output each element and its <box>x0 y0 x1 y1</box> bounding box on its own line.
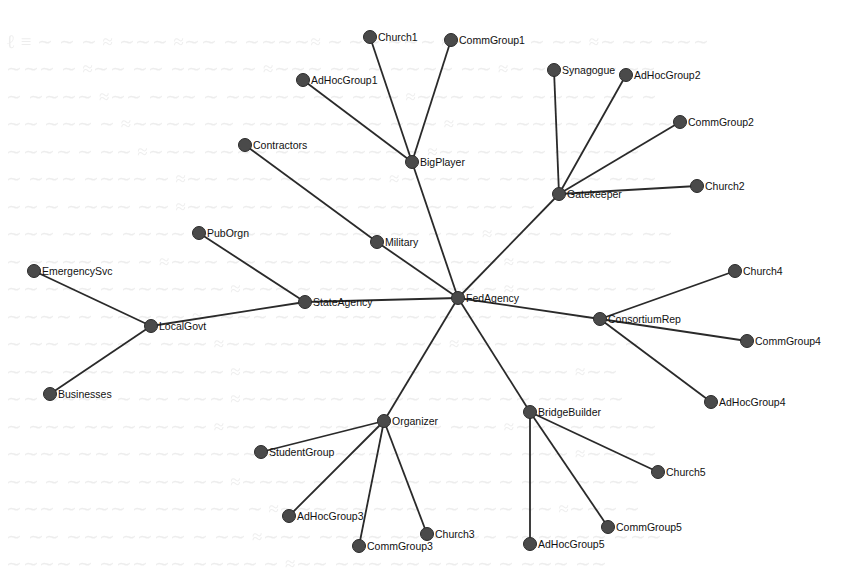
node-adhocgroup2: AdHocGroup2 <box>620 69 701 82</box>
node-marker <box>406 156 419 169</box>
node-organizer: Organizer <box>378 415 439 428</box>
node-marker <box>452 292 465 305</box>
node-marker <box>524 406 537 419</box>
node-church1: Church1 <box>364 31 418 44</box>
edge-localgovt-emergencysvc <box>34 271 151 326</box>
node-marker <box>353 540 366 553</box>
node-marker <box>553 188 566 201</box>
node-commgroup2: CommGroup2 <box>674 116 755 129</box>
node-marker <box>283 510 296 523</box>
node-marker <box>674 116 687 129</box>
node-label: Gatekeeper <box>567 188 622 200</box>
node-label: AdHocGroup1 <box>311 74 378 86</box>
edge-layer <box>34 37 747 546</box>
edge-fedagency-organizer <box>384 298 458 421</box>
node-commgroup1: CommGroup1 <box>445 34 526 47</box>
edge-fedagency-bigplayer <box>412 162 458 298</box>
node-bigplayer: BigPlayer <box>406 156 466 169</box>
node-marker <box>378 415 391 428</box>
node-label: Synagogue <box>562 64 615 76</box>
node-fedagency: FedAgency <box>452 292 520 305</box>
edge-consortiumrep-adhocgroup4 <box>600 319 711 402</box>
node-marker <box>239 139 252 152</box>
edge-bigplayer-adhocgroup1 <box>303 80 412 162</box>
node-marker <box>524 538 537 551</box>
edge-fedagency-bridgebuilder <box>458 298 530 412</box>
edge-bridgebuilder-commgroup5 <box>530 412 608 527</box>
node-label: Church4 <box>743 265 783 277</box>
node-label: Businesses <box>58 388 112 400</box>
edge-stateagency-puborgn <box>199 233 305 302</box>
edge-fedagency-military <box>377 242 458 298</box>
edge-localgovt-businesses <box>50 326 151 394</box>
node-label: Church1 <box>378 31 418 43</box>
node-label: LocalGovt <box>159 320 206 332</box>
node-marker <box>299 296 312 309</box>
node-contractors: Contractors <box>239 139 308 152</box>
node-commgroup5: CommGroup5 <box>602 521 683 534</box>
node-marker <box>421 528 434 541</box>
edge-gatekeeper-synagogue <box>554 70 559 194</box>
node-marker <box>44 388 57 401</box>
node-label: Military <box>385 236 419 248</box>
node-label: CommGroup2 <box>688 116 754 128</box>
node-puborgn: PubOrgn <box>193 227 250 240</box>
node-commgroup3: CommGroup3 <box>353 540 434 553</box>
edge-organizer-adhocgroup3 <box>289 421 384 516</box>
edge-bigplayer-commgroup1 <box>412 40 451 162</box>
node-marker <box>741 335 754 348</box>
node-commgroup4: CommGroup4 <box>741 335 822 348</box>
node-marker <box>620 69 633 82</box>
node-military: Military <box>371 236 419 249</box>
node-label: FedAgency <box>466 292 520 304</box>
node-marker <box>445 34 458 47</box>
node-label: StateAgency <box>313 296 373 308</box>
node-stateagency: StateAgency <box>299 296 374 309</box>
node-label: CommGroup3 <box>367 540 433 552</box>
node-label: AdHocGroup5 <box>538 538 605 550</box>
node-marker <box>729 265 742 278</box>
node-label: CommGroup1 <box>459 34 525 46</box>
node-bridgebuilder: BridgeBuilder <box>524 406 602 419</box>
edge-consortiumrep-church4 <box>600 271 735 319</box>
node-marker <box>548 64 561 77</box>
node-label: Organizer <box>392 415 439 427</box>
node-layer: FedAgencyBigPlayerChurch1CommGroup1AdHoc… <box>28 31 822 553</box>
node-label: CommGroup5 <box>616 521 682 533</box>
edge-fedagency-gatekeeper <box>458 194 559 298</box>
stakeholder-network-diagram: FedAgencyBigPlayerChurch1CommGroup1AdHoc… <box>0 0 850 582</box>
node-marker <box>652 466 665 479</box>
node-gatekeeper: Gatekeeper <box>553 188 623 201</box>
node-label: BridgeBuilder <box>538 406 602 418</box>
node-church5: Church5 <box>652 466 706 479</box>
node-marker <box>28 265 41 278</box>
edge-gatekeeper-adhocgroup2 <box>559 75 626 194</box>
node-marker <box>371 236 384 249</box>
node-marker <box>255 446 268 459</box>
node-marker <box>594 313 607 326</box>
node-marker <box>364 31 377 44</box>
node-emergencysvc: EmergencySvc <box>28 265 113 278</box>
node-marker <box>602 521 615 534</box>
node-label: BigPlayer <box>420 156 465 168</box>
node-label: Contractors <box>253 139 307 151</box>
edge-military-contractors <box>245 145 377 242</box>
node-label: Church5 <box>666 466 706 478</box>
node-label: ConsortiumRep <box>608 313 681 325</box>
node-label: EmergencySvc <box>42 265 113 277</box>
edge-gatekeeper-commgroup2 <box>559 122 680 194</box>
edge-bigplayer-church1 <box>370 37 412 162</box>
node-church3: Church3 <box>421 528 475 541</box>
node-label: AdHocGroup2 <box>634 69 701 81</box>
node-adhocgroup4: AdHocGroup4 <box>705 396 786 409</box>
node-marker <box>193 227 206 240</box>
edge-bridgebuilder-church5 <box>530 412 658 472</box>
node-businesses: Businesses <box>44 388 112 401</box>
node-label: Church3 <box>435 528 475 540</box>
node-label: PubOrgn <box>207 227 249 239</box>
node-church4: Church4 <box>729 265 783 278</box>
node-studentgroup: StudentGroup <box>255 446 335 459</box>
node-label: AdHocGroup4 <box>719 396 786 408</box>
node-label: CommGroup4 <box>755 335 821 347</box>
node-synagogue: Synagogue <box>548 64 616 77</box>
